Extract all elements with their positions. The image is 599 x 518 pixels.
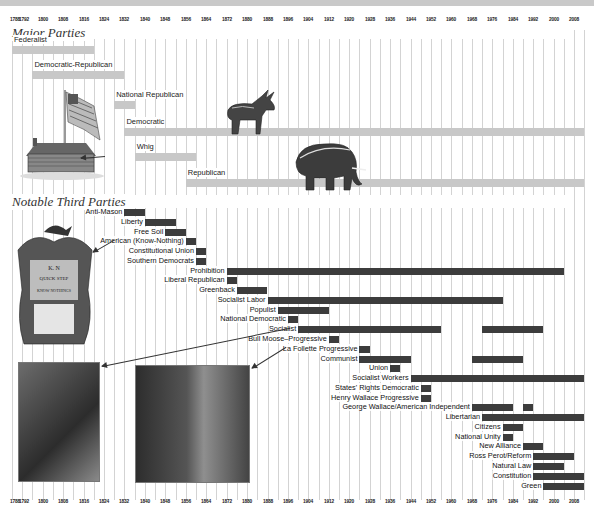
third-party-bar xyxy=(472,404,513,411)
year-tick-label: 1968 xyxy=(467,498,477,504)
third-party-label: Libertarian xyxy=(446,412,481,421)
third-party-bar xyxy=(533,453,574,460)
year-tick-label: 1928 xyxy=(365,16,375,22)
third-party-bar xyxy=(359,346,369,353)
third-party-bar xyxy=(523,404,533,411)
gridline xyxy=(339,30,340,500)
year-tick-label: 1848 xyxy=(160,498,170,504)
year-axis-top: 1788179218001808181618241832184018481856… xyxy=(0,16,599,26)
year-tick-label: 1976 xyxy=(487,16,497,22)
donkey-illustration xyxy=(222,88,278,140)
third-party-label: Liberal Republican xyxy=(164,275,225,284)
third-party-label: Southern Democrats xyxy=(127,256,195,265)
year-tick-label: 1912 xyxy=(324,16,334,22)
third-party-bar xyxy=(329,336,339,343)
year-tick-label: 1896 xyxy=(283,498,293,504)
major-party-bar xyxy=(114,101,134,109)
third-party-label: Communist xyxy=(321,354,359,363)
svg-text:QUICK STEP: QUICK STEP xyxy=(40,276,69,281)
year-tick-label: 2008 xyxy=(569,16,579,22)
third-party-label: National Democratic xyxy=(220,314,287,323)
major-party-label: National Republican xyxy=(115,90,184,99)
third-party-label: Ross Perot/Reform xyxy=(469,451,532,460)
third-party-bar xyxy=(390,365,400,372)
gridline xyxy=(574,30,575,500)
major-party-bar xyxy=(135,153,196,161)
third-party-label: Free Soil xyxy=(134,227,164,236)
year-tick-label: 1960 xyxy=(446,16,456,22)
year-tick-label: 1848 xyxy=(160,16,170,22)
gridline xyxy=(349,30,350,500)
gridline xyxy=(411,30,412,500)
gridline xyxy=(319,30,320,500)
year-tick-label: 1952 xyxy=(426,16,436,22)
year-tick-label: 1904 xyxy=(303,498,313,504)
third-party-bar xyxy=(472,356,523,363)
major-party-label: Federalist xyxy=(13,35,48,44)
year-tick-label: 1824 xyxy=(99,16,109,22)
year-tick-label: 1840 xyxy=(140,498,150,504)
third-party-bar xyxy=(165,229,185,236)
third-party-bar xyxy=(298,326,441,333)
third-party-label: Liberty xyxy=(121,217,144,226)
third-party-label: Citizens xyxy=(475,422,502,431)
third-party-bar xyxy=(288,316,298,323)
third-party-label: Greenback xyxy=(199,285,236,294)
year-tick-label: 1816 xyxy=(79,498,89,504)
year-tick-label: 1808 xyxy=(58,16,68,22)
log-cabin-flag-illustration xyxy=(18,88,110,183)
gridline xyxy=(472,30,473,500)
year-tick-label: 1896 xyxy=(283,16,293,22)
year-tick-label: 1840 xyxy=(140,16,150,22)
year-tick-label: 1800 xyxy=(38,16,48,22)
third-party-label: Henry Wallace Progressive xyxy=(331,393,420,402)
third-party-label: Socialist Workers xyxy=(352,373,409,382)
year-tick-label: 1856 xyxy=(181,16,191,22)
third-party-label: Prohibition xyxy=(190,266,225,275)
gridline xyxy=(421,30,422,500)
year-tick-label: 1832 xyxy=(119,498,129,504)
gridline xyxy=(380,30,381,500)
third-party-label: Bull Moose–Progressive xyxy=(248,334,328,343)
year-tick-label: 1992 xyxy=(528,498,538,504)
third-party-bar xyxy=(278,307,329,314)
year-axis-bottom: 1788179218001808181618241832184018481856… xyxy=(0,498,599,508)
third-party-bar xyxy=(145,219,176,226)
third-party-bar xyxy=(421,385,431,392)
year-tick-label: 1920 xyxy=(344,498,354,504)
third-party-label: Populist xyxy=(250,305,277,314)
year-tick-label: 1912 xyxy=(324,498,334,504)
gridline xyxy=(533,30,534,500)
year-tick-label: 1968 xyxy=(467,16,477,22)
gridline xyxy=(370,30,371,500)
year-tick-label: 1944 xyxy=(406,498,416,504)
major-party-label: Republican xyxy=(187,168,227,177)
year-tick-label: 1824 xyxy=(99,498,109,504)
top-band xyxy=(0,0,594,6)
year-tick-label: 1928 xyxy=(365,498,375,504)
year-tick-label: 1984 xyxy=(508,498,518,504)
third-party-label: National Unity xyxy=(455,432,501,441)
third-party-bar xyxy=(227,268,564,275)
third-party-bar xyxy=(482,414,584,421)
year-tick-label: 1960 xyxy=(446,498,456,504)
gridline xyxy=(359,30,360,500)
third-party-bar xyxy=(196,248,206,255)
third-party-bar xyxy=(268,297,503,304)
third-party-label: Union xyxy=(369,363,389,372)
third-party-label: Natural Law xyxy=(492,461,532,470)
third-party-label: Anti-Mason xyxy=(86,207,124,216)
year-tick-label: 2000 xyxy=(549,498,559,504)
year-tick-label: 1792 xyxy=(19,498,29,504)
year-tick-label: 1872 xyxy=(222,16,232,22)
third-party-bar xyxy=(411,375,585,382)
year-tick-label: 1808 xyxy=(58,498,68,504)
third-party-bar xyxy=(124,209,144,216)
year-tick-label: 1976 xyxy=(487,498,497,504)
third-party-bar xyxy=(503,434,513,441)
third-party-label: Constitutional Union xyxy=(129,246,195,255)
svg-text:KNOW NOTHINGS: KNOW NOTHINGS xyxy=(37,288,71,293)
third-party-bar xyxy=(359,356,410,363)
year-tick-label: 1792 xyxy=(19,16,29,22)
year-tick-label: 1864 xyxy=(201,498,211,504)
